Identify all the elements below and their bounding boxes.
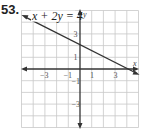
y-axis-down-arrow-icon <box>78 123 83 129</box>
x-tick-label: 1 <box>90 71 94 80</box>
x-axis-label: x <box>132 59 137 68</box>
y-axis-label: y <box>82 10 87 19</box>
x-tick-label: −3 <box>40 71 49 80</box>
coordinate-graph: x + 2y = 4 y x −3 −1 1 3 3 1 −1 −3 <box>0 0 149 131</box>
x-tick-label: 3 <box>114 71 118 80</box>
equation-label: x + 2y = 4 <box>31 9 83 23</box>
y-tick-label: −3 <box>72 100 81 109</box>
y-tick-label: −1 <box>72 77 81 86</box>
y-tick-label: 1 <box>74 53 78 62</box>
y-tick-label: 3 <box>74 30 78 39</box>
